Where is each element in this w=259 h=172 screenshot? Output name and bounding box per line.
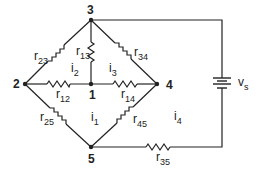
node-dot-5 xyxy=(89,145,93,149)
label-i2: i2 xyxy=(71,62,79,78)
node-label-3: 3 xyxy=(87,4,94,16)
label-i1: i1 xyxy=(91,111,99,127)
label-i3: i3 xyxy=(109,62,117,78)
battery-vs xyxy=(213,78,231,88)
resistor-r23 xyxy=(48,45,64,61)
node-label-2: 2 xyxy=(13,78,20,90)
node-dot-3 xyxy=(89,18,93,22)
label-r23: r23 xyxy=(34,50,48,66)
wire-r25-5 xyxy=(66,124,91,147)
wire-r23-3 xyxy=(64,20,91,45)
label-r45: r45 xyxy=(133,113,147,129)
wire-2-r25 xyxy=(25,84,50,108)
circuit-schematic xyxy=(0,0,259,172)
node-dot-4 xyxy=(155,82,159,86)
resistor-r45 xyxy=(117,107,133,123)
label-r25: r25 xyxy=(40,111,54,127)
label-r34: r34 xyxy=(134,46,148,62)
label-r13: r13 xyxy=(76,45,90,61)
node-label-4: 4 xyxy=(166,79,173,91)
label-r35: r35 xyxy=(156,151,170,167)
resistor-r14 xyxy=(113,81,137,87)
label-i4: i4 xyxy=(174,110,182,126)
node-dot-2 xyxy=(23,82,27,86)
wire-4-r45 xyxy=(133,84,157,107)
label-r14: r14 xyxy=(121,88,135,104)
label-r12: r12 xyxy=(56,88,70,104)
wire-3-r34 xyxy=(91,20,115,43)
label-vs: vs xyxy=(238,76,249,92)
node-label-5: 5 xyxy=(88,153,95,165)
resistor-r34 xyxy=(115,43,131,59)
node-label-1: 1 xyxy=(89,89,96,101)
node-dot-1 xyxy=(89,82,93,86)
wire-r34-4 xyxy=(131,59,157,84)
